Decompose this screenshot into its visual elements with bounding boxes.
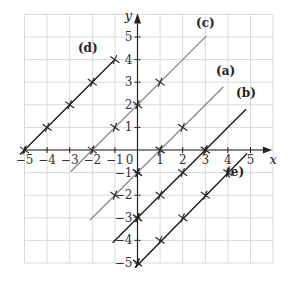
y-tick-label: 3: [125, 75, 133, 89]
series-lines: [20, 36, 247, 268]
x-axis-label: x: [269, 152, 277, 167]
y-axis-label: y: [124, 8, 133, 23]
series-label-b: (b): [236, 86, 256, 100]
x-tick-label: −3: [61, 153, 79, 167]
x-tick-label: 5: [247, 153, 255, 167]
tick-labels: −5−4−3−2−1012345−5−4−3−2−112345xy: [16, 8, 278, 270]
x-tick-label: −2: [83, 153, 101, 167]
series-label-c: (c): [196, 16, 215, 30]
series-label-e: (e): [225, 165, 244, 179]
series-label-a: (a): [216, 64, 235, 78]
x-tick-label: 2: [179, 153, 187, 167]
y-tick-label: −2: [115, 188, 133, 202]
y-tick-label: −4: [115, 233, 133, 247]
series-line-d: [20, 60, 115, 155]
y-tick-label: 1: [125, 120, 133, 134]
x-tick-label: −5: [16, 153, 34, 167]
x-tick-label: 1: [156, 153, 164, 167]
series-label-d: (d): [78, 41, 98, 55]
y-tick-label: −3: [115, 211, 133, 225]
grid: [25, 14, 274, 263]
line-chart: −5−4−3−2−1012345−5−4−3−2−112345xy (a)(b)…: [0, 0, 287, 282]
y-tick-label: −5: [115, 256, 133, 270]
y-tick-label: −1: [115, 166, 133, 180]
x-tick-label: 3: [201, 153, 209, 167]
y-tick-label: 5: [125, 30, 133, 44]
x-tick-label: −4: [38, 153, 56, 167]
axes: [25, 13, 272, 263]
y-tick-label: 2: [125, 98, 133, 112]
series-line-c: [71, 36, 207, 172]
y-tick-label: 4: [125, 53, 133, 67]
